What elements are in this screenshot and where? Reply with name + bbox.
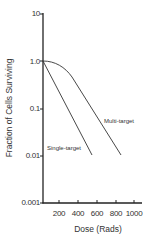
y-axis-label: Fraction of Cells Surviving — [4, 58, 14, 157]
x-tick-label: 800 — [110, 209, 123, 218]
single-target-label: Single-target — [47, 145, 81, 151]
y-tick-label: 0.01 — [26, 151, 41, 160]
y-tick-label: 10 — [32, 9, 41, 18]
x-tick-label: 400 — [72, 209, 85, 218]
y-tick-label: 0.001 — [21, 198, 40, 207]
y-tick-label: 1.0 — [30, 57, 41, 66]
multi-target-label: Multi-target — [104, 118, 134, 124]
x-tick-label: 200 — [53, 209, 66, 218]
y-tick-label: 0.1 — [30, 104, 41, 113]
x-tick-label: 1000 — [126, 209, 143, 218]
x-tick-label: 600 — [91, 209, 104, 218]
survival-curve-chart: 10 1.0 0.1 0.01 0.001 200 400 600 800 10… — [0, 0, 156, 244]
multi-target-curve — [43, 61, 121, 155]
x-axis-label: Dose (Rads) — [74, 224, 122, 234]
single-target-curve — [43, 61, 92, 155]
